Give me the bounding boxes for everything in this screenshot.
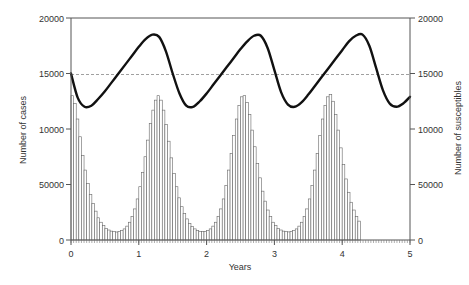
right-axis-title: Number of susceptibles (453, 80, 463, 175)
case-bar (308, 199, 311, 240)
case-bar (285, 232, 288, 240)
right-tick-label: 20000 (418, 14, 443, 24)
case-bar (199, 231, 202, 240)
left-axis-title: Number of cases (18, 95, 28, 164)
x-tick-label: 2 (204, 249, 209, 259)
right-tick-label: 10000 (418, 125, 443, 135)
x-tick-label: 0 (68, 249, 73, 259)
case-bar (115, 232, 118, 240)
case-bar (102, 226, 105, 240)
left-tick-label: 50000 (39, 180, 64, 190)
case-bar (277, 228, 280, 240)
case-bar (233, 136, 236, 240)
case-bar (290, 232, 293, 240)
case-bar (84, 170, 87, 240)
chart-svg: 050000100001500020000 050000100001500020… (0, 0, 469, 285)
case-bar (157, 96, 160, 240)
case-bar (282, 231, 285, 240)
x-tick-label: 3 (272, 249, 277, 259)
case-bar (300, 222, 303, 240)
case-bar (254, 147, 257, 240)
case-bar (340, 148, 343, 240)
case-bar (295, 229, 298, 240)
case-bar (123, 229, 126, 240)
case-bar (259, 178, 262, 240)
case-bar (92, 203, 95, 240)
case-bar (201, 232, 204, 240)
case-bar (298, 226, 301, 240)
case-bar (81, 156, 84, 240)
case-bar (167, 141, 170, 240)
case-bar (248, 115, 251, 240)
case-bar (194, 229, 197, 240)
left-tick-label: 10000 (39, 125, 64, 135)
x-tick-label: 1 (136, 249, 141, 259)
case-bar (293, 231, 296, 240)
case-bar (355, 217, 358, 240)
x-tick-label: 4 (340, 249, 345, 259)
case-bar (136, 199, 139, 240)
right-tick-label: 15000 (418, 69, 443, 79)
right-tick-label: 0 (418, 236, 423, 246)
cases-bars (71, 95, 360, 240)
case-bar (212, 226, 215, 240)
case-bar (204, 231, 207, 240)
case-bar (272, 222, 275, 240)
case-bar (165, 125, 168, 240)
case-bar (217, 217, 220, 240)
case-bar (160, 100, 163, 240)
case-bar (74, 103, 77, 240)
case-bar (311, 186, 314, 240)
case-bar (256, 163, 259, 240)
case-bar (128, 222, 131, 240)
case-bar (287, 232, 290, 240)
case-bar (79, 137, 82, 240)
case-bar (110, 231, 113, 240)
case-bar (251, 130, 254, 240)
left-axis-ticks: 050000100001500020000 (39, 14, 71, 246)
case-bar (303, 217, 306, 240)
case-bar (152, 110, 155, 240)
case-bar (246, 102, 249, 240)
case-bar (264, 201, 267, 240)
case-bar (149, 123, 152, 240)
case-bar (225, 186, 228, 240)
case-bar (334, 115, 337, 240)
x-tick-label: 5 (407, 249, 412, 259)
right-axis-ticks: 050000100001500020000 (410, 14, 443, 246)
case-bar (240, 97, 243, 240)
case-bar (314, 170, 317, 240)
case-bar (108, 230, 111, 240)
case-bar (105, 228, 108, 240)
case-bar (214, 222, 217, 240)
case-bar (347, 192, 350, 240)
case-bar (267, 210, 270, 240)
case-bar (144, 157, 147, 240)
case-bar (178, 198, 181, 240)
case-bar (89, 194, 92, 240)
case-bar (207, 230, 210, 240)
case-bar (332, 101, 335, 240)
case-bar (274, 226, 277, 240)
case-bar (306, 209, 309, 240)
x-axis-ticks: 012345 (68, 240, 412, 259)
case-bar (280, 230, 283, 240)
case-bar (243, 96, 246, 240)
case-bar (342, 165, 345, 240)
case-bar (126, 226, 129, 240)
case-bar (141, 172, 144, 240)
case-bar (227, 170, 230, 240)
case-bar (329, 95, 332, 240)
case-bar (188, 223, 191, 240)
case-bar (222, 199, 225, 240)
case-bar (170, 158, 173, 240)
case-bar (209, 229, 212, 240)
case-bar (345, 179, 348, 240)
case-bar (94, 211, 97, 240)
x-axis-title: Years (229, 262, 252, 272)
case-bar (316, 153, 319, 240)
case-bar (147, 140, 150, 240)
case-bar (269, 217, 272, 240)
case-bar (181, 207, 184, 240)
case-bar (131, 217, 134, 240)
